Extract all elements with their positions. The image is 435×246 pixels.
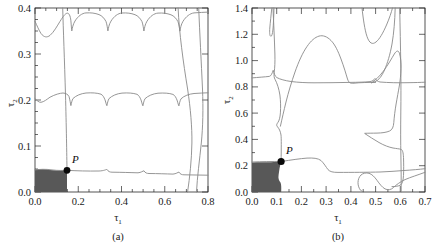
panel-b-xtick-7: 0.7 xyxy=(418,196,431,207)
panel-a-xtick-2: 0.4 xyxy=(115,196,129,207)
panel-b-curve-right-lower-lens xyxy=(365,134,404,187)
panel-b-xtick-5: 0.5 xyxy=(369,196,382,207)
panel-b-curve-right-vertical xyxy=(400,8,402,192)
panel-a-xtick-4: 0.8 xyxy=(201,196,214,207)
figure-root: P 0.0 0.1 0.2 0.3 0.4 0.0 0.2 0.4 0.6 0.… xyxy=(0,0,435,246)
panel-a-yaxis-title: τ2 xyxy=(5,99,19,107)
panel-b-ytick-3: 0.6 xyxy=(235,108,248,119)
panel-a: P 0.0 0.1 0.2 0.3 0.4 0.0 0.2 0.4 0.6 0.… xyxy=(0,0,218,246)
panel-b-ytick-5: 1.0 xyxy=(235,55,248,66)
panel-b-xtick-6: 0.6 xyxy=(394,196,407,207)
panel-a-stable-region xyxy=(35,169,67,192)
panel-b-plot: P 0.0 0.2 0.4 0.6 0.8 1.0 1.2 1.4 0.0 0.… xyxy=(218,0,435,246)
panel-a-point-p-label: P xyxy=(71,153,79,165)
panel-a-caption: (a) xyxy=(112,231,124,243)
panel-b-ytick-7: 1.4 xyxy=(235,3,249,14)
panel-b-yaxis-subscript: 2 xyxy=(227,96,235,100)
panel-b-xtick-1: 0.1 xyxy=(270,196,283,207)
panel-b: P 0.0 0.2 0.4 0.6 0.8 1.0 1.2 1.4 0.0 0.… xyxy=(218,0,435,246)
panel-a-frame xyxy=(35,8,208,192)
panel-b-right-ticks xyxy=(419,8,425,192)
panel-a-ytick-2: 0.2 xyxy=(18,95,31,106)
panel-b-xtick-0: 0.0 xyxy=(245,196,258,207)
panel-b-ytick-4: 0.8 xyxy=(235,81,248,92)
panel-a-point-p-marker xyxy=(64,167,71,174)
panel-b-curve-right-mid-lens xyxy=(365,51,401,133)
panel-b-ytick-2: 0.4 xyxy=(235,134,249,145)
panel-b-point-p-marker xyxy=(278,158,285,165)
panel-b-xaxis-subscript: 1 xyxy=(338,218,342,226)
panel-a-ytick-1: 0.1 xyxy=(18,141,31,152)
panel-b-curve-central-dome xyxy=(280,36,375,126)
panel-a-ytick-3: 0.3 xyxy=(18,49,31,60)
panel-b-curve-right-upper-hook xyxy=(362,8,393,43)
panel-b-curve-mid-s xyxy=(273,8,281,162)
panel-a-ytick-4: 0.4 xyxy=(18,3,32,14)
panel-a-plot: P 0.0 0.1 0.2 0.3 0.4 0.0 0.2 0.4 0.6 0.… xyxy=(0,0,218,246)
panel-b-ytick-1: 0.2 xyxy=(235,160,248,171)
panel-a-xtick-3: 0.6 xyxy=(158,196,171,207)
panel-a-curve-vertical-left xyxy=(63,8,67,170)
panel-a-xaxis-title: τ1 xyxy=(114,212,122,226)
panel-b-yaxis-title: τ2 xyxy=(221,96,235,104)
panel-b-curve-horizontal-087 xyxy=(252,70,425,83)
panel-b-point-p-label: P xyxy=(285,144,293,156)
panel-b-curve-lower-hook xyxy=(358,172,425,192)
panel-b-caption: (b) xyxy=(332,231,345,243)
panel-b-xtick-2: 0.2 xyxy=(295,196,308,207)
panel-a-xtick-0: 0.0 xyxy=(28,196,41,207)
panel-a-curve-vertical-right-2 xyxy=(197,8,203,192)
panel-b-stable-region xyxy=(252,162,281,193)
panel-b-top-ticks xyxy=(252,8,425,14)
panel-a-xtick-1: 0.2 xyxy=(72,196,85,207)
panel-a-yaxis-subscript: 2 xyxy=(11,99,19,103)
panel-a-curve-upper xyxy=(35,12,208,37)
panel-b-xaxis-title: τ1 xyxy=(334,212,342,226)
panel-b-xtick-4: 0.4 xyxy=(344,196,358,207)
panel-a-xaxis-subscript: 1 xyxy=(118,218,122,226)
panel-b-ytick-6: 1.2 xyxy=(235,29,248,40)
panel-b-xtick-3: 0.3 xyxy=(320,196,333,207)
panel-a-curve-mid xyxy=(35,93,208,106)
